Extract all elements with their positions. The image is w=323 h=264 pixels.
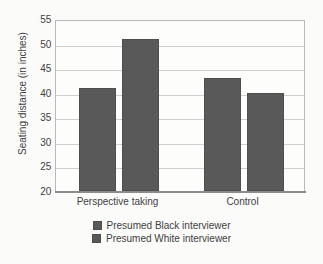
gridline [56,70,304,71]
y-axis-tick-label: 35 [27,113,51,123]
bar [204,78,241,191]
legend-item: Presumed Black interviewer [93,220,231,231]
y-axis-tick-label: 20 [27,187,51,197]
chart-legend: Presumed Black interviewerPresumed White… [0,220,323,244]
x-axis-line [55,191,306,193]
y-axis-tick-label: 45 [27,64,51,74]
plot-area [55,20,305,192]
y-axis-tick-label: 55 [27,15,51,25]
legend-label: Presumed White interviewer [106,233,231,244]
y-axis-tick-label: 40 [27,89,51,99]
bar-chart-figure: Seating distance (in inches) 20253035404… [0,0,323,264]
legend-label: Presumed Black interviewer [107,220,231,231]
legend-swatch-icon [92,234,101,243]
y-axis-tick-label: 50 [27,40,51,50]
bar [79,88,116,191]
y-axis-title: Seating distance (in inches) [17,9,28,179]
x-axis-category-label: Control [226,196,258,208]
y-axis-tick-label: 25 [27,162,51,172]
bar [122,39,159,191]
legend-item: Presumed White interviewer [92,233,231,244]
legend-swatch-icon [93,221,102,230]
y-axis-tick-label: 30 [27,138,51,148]
x-axis-category-label: Perspective taking [77,196,159,208]
gridline [56,46,304,47]
bar [247,93,284,191]
